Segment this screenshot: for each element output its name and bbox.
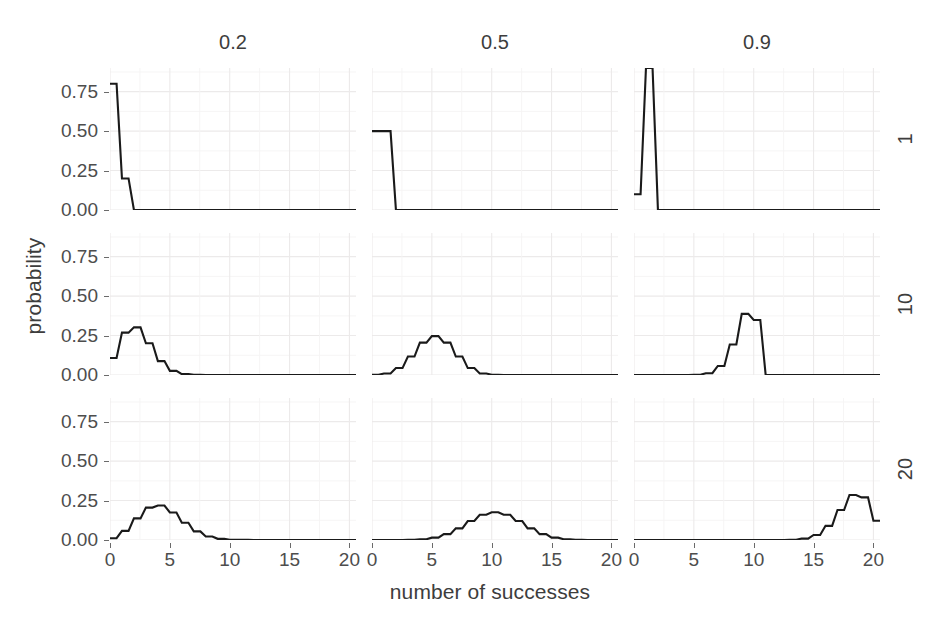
x-axis-tick-label-c1-2: 10 [475, 549, 509, 571]
y-axis-tick-label-r0-0: 0.00 [32, 200, 98, 220]
x-axis-tick-mark-c0-0 [110, 543, 111, 548]
facet-panel-n1-p09 [634, 68, 880, 210]
x-axis-tick-mark-c1-2 [492, 543, 493, 548]
y-axis-tick-mark-r0-0 [104, 210, 109, 211]
x-axis-tick-mark-c0-2 [230, 543, 231, 548]
panel-gridlines [634, 68, 880, 210]
panel-gridlines [634, 233, 880, 375]
panel-gridlines [110, 68, 356, 210]
panel-gridlines [110, 398, 356, 540]
y-axis-tick-label-r2-1: 0.25 [32, 491, 98, 511]
x-axis-tick-label-c2-0: 0 [617, 549, 651, 571]
y-axis-tick-mark-r2-2 [104, 461, 109, 462]
facet-panel-n1-p02 [110, 68, 356, 210]
x-axis-tick-mark-c1-3 [552, 543, 553, 548]
y-axis-tick-label-r0-3: 0.75 [32, 82, 98, 102]
x-axis-tick-mark-c2-1 [694, 543, 695, 548]
x-axis-tick-mark-c2-4 [873, 543, 874, 548]
facet-panel-n10-p05 [372, 233, 618, 375]
y-axis-tick-mark-r0-3 [104, 92, 109, 93]
x-axis-tick-mark-c0-3 [290, 543, 291, 548]
y-axis-tick-label-r2-0: 0.00 [32, 530, 98, 550]
facet-column-label-0: 0.2 [110, 28, 356, 56]
facet-panel-n20-p05 [372, 398, 618, 540]
x-axis-tick-label-c2-3: 15 [797, 549, 831, 571]
x-axis-tick-label-c0-1: 5 [153, 549, 187, 571]
facet-row-label-2: 20 [888, 455, 922, 483]
y-axis-tick-mark-r2-3 [104, 422, 109, 423]
facet-panel-n1-p05 [372, 68, 618, 210]
facet-row-label-1: 10 [888, 290, 922, 318]
facet-panel-n10-p02 [110, 233, 356, 375]
x-axis-tick-label-c0-2: 10 [213, 549, 247, 571]
facet-row-label-text-1: 10 [891, 293, 919, 315]
y-axis-tick-mark-r2-0 [104, 540, 109, 541]
facet-column-label-2: 0.9 [634, 28, 880, 56]
x-axis-tick-label-c0-0: 0 [93, 549, 127, 571]
facet-column-label-1: 0.5 [372, 28, 618, 56]
x-axis-tick-mark-c1-4 [611, 543, 612, 548]
facet-row-label-text-0: 1 [891, 133, 919, 144]
facet-panel-n20-p09 [634, 398, 880, 540]
panel-gridlines [372, 233, 618, 375]
y-axis-tick-mark-r1-0 [104, 375, 109, 376]
x-axis-tick-label-c1-1: 5 [415, 549, 449, 571]
x-axis-tick-mark-c1-1 [432, 543, 433, 548]
y-axis-tick-label-r1-3: 0.75 [32, 247, 98, 267]
facet-row-label-0: 1 [888, 125, 922, 153]
y-axis-tick-label-r0-1: 0.25 [32, 161, 98, 181]
facet-panel-n10-p09 [634, 233, 880, 375]
y-axis-tick-label-r0-2: 0.50 [32, 121, 98, 141]
y-axis-tick-label-r1-0: 0.00 [32, 365, 98, 385]
y-axis-tick-mark-r0-2 [104, 131, 109, 132]
x-axis-tick-label-c1-3: 15 [535, 549, 569, 571]
x-axis-title: number of successes [110, 580, 870, 604]
x-axis-tick-mark-c2-2 [754, 543, 755, 548]
y-axis-tick-mark-r2-1 [104, 501, 109, 502]
y-axis-tick-mark-r0-1 [104, 171, 109, 172]
x-axis-tick-label-c2-1: 5 [677, 549, 711, 571]
x-axis-tick-mark-c0-4 [349, 543, 350, 548]
y-axis-tick-label-r2-2: 0.50 [32, 451, 98, 471]
facet-row-label-text-2: 20 [891, 458, 919, 480]
x-axis-tick-mark-c1-0 [372, 543, 373, 548]
y-axis-tick-mark-r1-3 [104, 257, 109, 258]
x-axis-tick-label-c2-2: 10 [737, 549, 771, 571]
x-axis-tick-label-c0-3: 15 [273, 549, 307, 571]
y-axis-tick-label-r1-1: 0.25 [32, 326, 98, 346]
y-axis-tick-label-r1-2: 0.50 [32, 286, 98, 306]
x-axis-tick-label-c2-4: 20 [856, 549, 890, 571]
y-axis-tick-label-r2-3: 0.75 [32, 412, 98, 432]
panel-gridlines [372, 68, 618, 210]
panel-gridlines [372, 398, 618, 540]
y-axis-tick-mark-r1-2 [104, 296, 109, 297]
chart-figure: probability number of successes 0.20.50.… [0, 0, 928, 625]
facet-panel-n20-p02 [110, 398, 356, 540]
x-axis-tick-mark-c2-3 [814, 543, 815, 548]
x-axis-tick-label-c1-0: 0 [355, 549, 389, 571]
y-axis-tick-mark-r1-1 [104, 336, 109, 337]
panel-gridlines [110, 233, 356, 375]
panel-gridlines [634, 398, 880, 540]
x-axis-tick-mark-c0-1 [170, 543, 171, 548]
x-axis-tick-mark-c2-0 [634, 543, 635, 548]
